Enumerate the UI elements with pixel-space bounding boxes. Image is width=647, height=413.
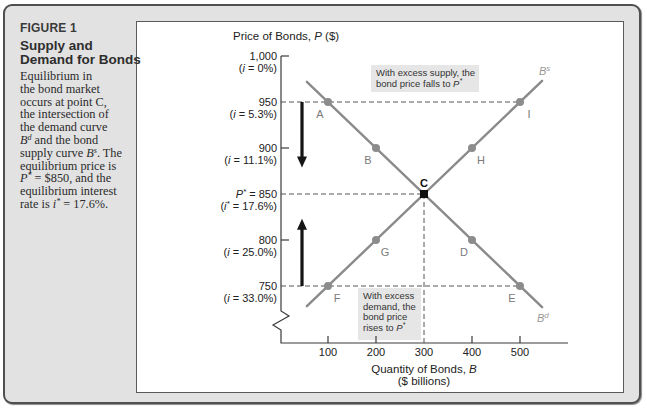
y-tick-rate-label: (i = 11.1%) [224, 154, 277, 166]
x-tick-label: 100 [319, 346, 337, 358]
point-label: E [508, 292, 515, 304]
point-i [516, 98, 524, 106]
y-tick-rate-label: (i = 0%) [239, 62, 277, 74]
y-tick-label: 1,000 [249, 50, 277, 62]
excess-demand-note-text: With excess [363, 290, 414, 301]
supply-curve-label: Bs [539, 64, 550, 77]
up-arrow-icon [297, 219, 307, 230]
y-tick-rate-label: (i* = 17.6%) [220, 199, 277, 212]
point-g [372, 236, 380, 244]
point-label: H [477, 154, 485, 166]
point-label: D [460, 246, 468, 258]
point-a [324, 98, 332, 106]
y-tick-label: 900 [259, 142, 277, 154]
excess-demand-note-text: demand, the [363, 301, 416, 312]
excess-supply-note-text: bond price falls to P* [376, 77, 462, 89]
x-tick-label: 400 [463, 346, 481, 358]
x-tick-label: 300 [415, 346, 433, 358]
x-tick-label: 200 [367, 346, 385, 358]
y-tick-label: 800 [259, 234, 277, 246]
y-tick-label: P* = 850 [236, 187, 277, 200]
point-d [468, 236, 476, 244]
point-h [468, 144, 476, 152]
arrow-shaft [300, 102, 303, 157]
excess-demand-note-text: rises to P* [363, 321, 406, 333]
y-tick-rate-label: (i = 33.0%) [223, 292, 277, 304]
demand-curve-label: Bd [537, 311, 549, 324]
arrow-shaft [300, 229, 303, 286]
y-tick-rate-label: (i = 25.0%) [223, 246, 277, 258]
point-label: C [420, 177, 428, 189]
point-label: F [334, 292, 341, 304]
point-label: I [527, 108, 530, 120]
y-axis-title: Price of Bonds, P ($) [233, 30, 339, 42]
point-f [324, 282, 332, 290]
x-axis-title: Quantity of Bonds, B [371, 363, 477, 375]
x-tick-label: 500 [511, 346, 529, 358]
point-label: B [364, 154, 371, 166]
point-e [516, 282, 524, 290]
excess-demand-note-text: bond price [363, 311, 407, 322]
x-axis-title: ($ billions) [398, 375, 451, 387]
equilibrium-point-c [420, 190, 428, 198]
y-tick-label: 750 [259, 280, 277, 292]
y-tick-label: 950 [259, 96, 277, 108]
point-b [372, 144, 380, 152]
down-arrow-icon [297, 156, 307, 167]
supply-demand-chart: With excess supply, thebond price falls … [0, 0, 647, 413]
point-label: G [381, 246, 390, 258]
point-label: A [316, 108, 324, 120]
y-tick-rate-label: (i = 5.3%) [230, 108, 277, 120]
